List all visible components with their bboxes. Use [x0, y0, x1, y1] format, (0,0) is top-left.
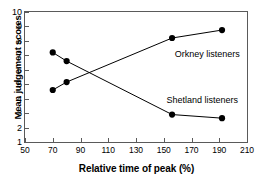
chart-figure: Mean judgement scores 123456789105070901…	[0, 0, 273, 185]
series-label-shetland: Shetland listeners	[167, 96, 239, 105]
x-axis-tick-label: 190	[212, 146, 226, 155]
data-point-marker	[219, 115, 225, 121]
x-axis-tick-mark	[164, 138, 165, 142]
x-axis-tick-mark	[108, 138, 109, 142]
x-axis-tick-mark	[53, 138, 54, 142]
series-orkney	[50, 27, 225, 93]
x-axis-tick-label: 70	[48, 146, 57, 155]
y-axis-tick-label: 2	[17, 123, 22, 132]
y-axis-tick-mark	[25, 84, 29, 85]
data-point-marker	[169, 111, 175, 117]
y-axis-tick-label: 5	[17, 80, 22, 89]
x-axis-tick-mark	[81, 138, 82, 142]
y-axis-tick-mark	[25, 113, 29, 114]
chart-svg	[25, 12, 249, 144]
y-axis-tick-mark	[25, 142, 29, 143]
data-point-marker	[219, 27, 225, 33]
x-axis-tick-label: 90	[76, 146, 85, 155]
x-axis-title: Relative time of peak (%)	[0, 163, 273, 174]
data-point-marker	[50, 87, 56, 93]
y-axis-tick-mark	[25, 55, 29, 56]
y-axis-tick-mark	[25, 99, 29, 100]
x-axis-tick-label: 110	[101, 146, 115, 155]
x-axis-tick-mark	[192, 138, 193, 142]
y-axis-tick-label: 10	[12, 8, 22, 17]
data-point-marker	[169, 35, 175, 41]
plot-area: 12345678910507090110130150170190210Orkne…	[24, 11, 248, 143]
x-axis-tick-mark	[25, 138, 26, 142]
y-axis-tick-mark	[25, 70, 29, 71]
y-axis-tick-mark	[25, 12, 29, 13]
x-axis-tick-label: 210	[240, 146, 254, 155]
data-point-marker	[50, 49, 56, 55]
y-axis-tick-mark	[25, 41, 29, 42]
x-axis-tick-label: 130	[129, 146, 143, 155]
series-shetland	[50, 49, 225, 121]
y-axis-tick-label: 8	[17, 36, 22, 45]
y-axis-tick-label: 3	[17, 109, 22, 118]
x-axis-tick-mark	[136, 138, 137, 142]
data-point-marker	[64, 79, 70, 85]
x-axis-tick-label: 170	[184, 146, 198, 155]
x-axis-tick-label: 150	[157, 146, 171, 155]
series-line	[53, 30, 222, 90]
series-label-orkney: Orkney listeners	[175, 50, 240, 59]
y-axis-tick-label: 4	[17, 94, 22, 103]
data-point-marker	[64, 58, 70, 64]
x-axis-tick-mark	[247, 138, 248, 142]
y-axis-tick-label: 9	[17, 22, 22, 31]
y-axis-tick-label: 6	[17, 65, 22, 74]
y-axis-tick-label: 7	[17, 51, 22, 60]
series-line	[53, 52, 222, 118]
x-axis-tick-mark	[219, 138, 220, 142]
y-axis-tick-mark	[25, 128, 29, 129]
x-axis-tick-label: 50	[20, 146, 29, 155]
y-axis-tick-mark	[25, 26, 29, 27]
